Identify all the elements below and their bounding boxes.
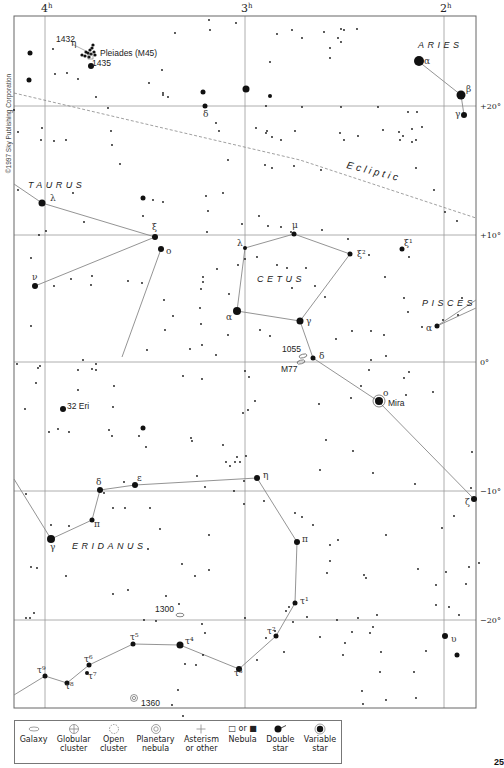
faint-star <box>141 282 143 284</box>
faint-star <box>417 568 419 570</box>
bright-star <box>292 232 297 237</box>
faint-star <box>416 111 418 113</box>
legend-label: Galaxy <box>20 735 48 744</box>
faint-star <box>30 325 32 327</box>
star-designation: τ⁷ <box>88 671 97 681</box>
faint-star <box>433 189 435 191</box>
faint-star <box>340 28 342 30</box>
faint-star <box>138 435 140 437</box>
star-designation: τ⁴ <box>185 636 194 646</box>
faint-star <box>471 451 473 453</box>
bright-star <box>471 496 477 502</box>
faint-star <box>265 637 267 639</box>
faint-star <box>337 539 339 541</box>
faint-star <box>108 429 110 431</box>
faint-star <box>225 461 227 463</box>
bright-star <box>414 56 424 66</box>
faint-star <box>199 307 201 309</box>
faint-star <box>53 285 55 287</box>
constellation-name: ARIES <box>417 40 463 50</box>
faint-star <box>189 348 191 350</box>
faint-star <box>45 230 47 232</box>
faint-star <box>318 403 320 405</box>
pleiades-star <box>80 53 83 56</box>
bright-star <box>39 200 46 207</box>
faint-star <box>222 444 224 446</box>
faint-star <box>465 583 467 585</box>
page-number: 25 <box>494 757 504 767</box>
star-designation: υ <box>451 634 457 644</box>
faint-star <box>363 574 365 576</box>
faint-star <box>77 78 79 80</box>
faint-star <box>54 73 56 75</box>
faint-star <box>342 654 344 656</box>
faint-star <box>233 490 235 492</box>
faint-star <box>265 105 267 107</box>
faint-star <box>254 400 256 402</box>
legend-label: Globular <box>57 735 91 744</box>
legend-label: Nebula <box>228 735 256 744</box>
faint-star <box>29 617 31 619</box>
star-designation: τ⁶ <box>84 654 93 664</box>
faint-star <box>301 37 303 39</box>
faint-star <box>411 128 413 130</box>
faint-star <box>65 139 67 141</box>
faint-star <box>24 408 26 410</box>
constellation-line <box>14 478 297 695</box>
legend-label: Variable <box>304 735 336 744</box>
star-designation: λ <box>237 238 243 248</box>
faint-star <box>256 659 258 661</box>
faint-star <box>215 354 217 356</box>
faint-star <box>52 48 54 50</box>
faint-star <box>195 664 197 666</box>
star-designation: μ <box>292 220 298 230</box>
faint-star <box>382 129 384 131</box>
star-designation: o <box>166 246 171 256</box>
faint-star <box>340 106 342 108</box>
faint-star <box>402 135 404 137</box>
faint-star <box>206 231 208 233</box>
legend-galaxy: Galaxy <box>20 723 48 744</box>
planetary-nebula-icon <box>132 696 135 699</box>
faint-star <box>110 130 112 132</box>
bright-star <box>60 406 66 412</box>
faint-star <box>127 280 129 282</box>
faint-star <box>293 165 295 167</box>
bright-star <box>254 475 260 481</box>
bright-star <box>293 601 298 606</box>
bright-star <box>28 51 33 56</box>
star-designation: ξ² <box>357 249 366 259</box>
faint-star <box>435 604 437 606</box>
faint-star <box>325 439 327 441</box>
faint-star <box>445 571 447 573</box>
faint-star <box>202 654 204 656</box>
globular-cluster-icon <box>68 723 80 734</box>
dec-label: +10° <box>480 231 501 240</box>
faint-star <box>457 314 459 316</box>
faint-star <box>152 199 154 201</box>
faint-star <box>258 215 260 217</box>
faint-star <box>244 370 246 372</box>
ra-label: 4h <box>41 2 53 15</box>
faint-star <box>107 107 109 109</box>
bright-star <box>233 307 241 315</box>
faint-star <box>267 225 269 227</box>
bright-star <box>461 112 467 118</box>
faint-star <box>174 32 176 34</box>
faint-star <box>53 140 55 142</box>
faint-star <box>38 234 40 236</box>
bright-star <box>442 633 448 639</box>
faint-star <box>201 378 203 380</box>
star-designation: δ <box>96 477 101 487</box>
galaxy-icon <box>299 353 308 359</box>
faint-star <box>259 329 261 331</box>
star-designation: o <box>383 388 388 398</box>
faint-star <box>448 606 450 608</box>
object-label: 1300 <box>155 604 174 614</box>
faint-star <box>95 369 97 371</box>
faint-star <box>196 475 198 477</box>
faint-star <box>352 450 354 452</box>
faint-star <box>256 256 258 258</box>
faint-star <box>244 617 246 619</box>
bright-star <box>152 234 158 240</box>
